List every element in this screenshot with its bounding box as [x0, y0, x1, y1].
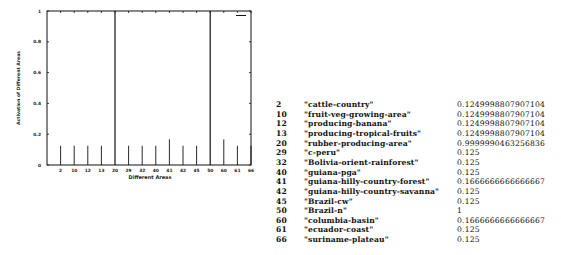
- x-tick-label: 32: [139, 168, 145, 173]
- x-tick-label: 60: [221, 168, 227, 173]
- activation-bar-chart: Activation of Different Areas 00.20.40.6…: [0, 0, 270, 200]
- area-name: "c-peru": [304, 148, 340, 158]
- x-tick-label: 40: [153, 168, 159, 173]
- x-tick-label: 10: [71, 168, 77, 173]
- area-name: "ecuador-coast": [304, 225, 373, 235]
- table-row: 41"guiana-hilly-country-forest"0.1666666…: [273, 177, 561, 187]
- area-id: 50: [276, 206, 287, 216]
- activation-value: 0.1249998807907104: [457, 110, 545, 120]
- area-name: "Brazil-cw": [304, 197, 353, 207]
- area-id: 2: [276, 100, 281, 110]
- x-tick-label: 12: [85, 168, 91, 173]
- activation-value: 0.125: [457, 197, 480, 207]
- activation-value: 0.9999990463256836: [457, 139, 545, 149]
- table-row: 2"cattle-country"0.1249998807907104: [273, 100, 561, 110]
- area-id: 60: [276, 216, 287, 226]
- table-row: 60"columbia-basin"0.1666666666666667: [273, 216, 561, 226]
- activation-value: 0.125: [457, 148, 480, 158]
- area-id: 40: [276, 168, 287, 178]
- area-name: "Bolivia-orient-rainforest": [304, 158, 418, 168]
- activation-value: 0.1249998807907104: [457, 129, 545, 139]
- table-row: 40"guiana-pga"0.125: [273, 168, 561, 178]
- area-id: 45: [276, 197, 287, 207]
- y-tick-label: 0.6: [33, 70, 41, 75]
- y-tick-label: 0.4: [33, 101, 41, 106]
- area-name: "suriname-plateau": [304, 235, 389, 245]
- y-tick-label: 0.8: [33, 39, 41, 44]
- area-name: "Brazil-n": [304, 206, 347, 216]
- x-tick-label: 13: [98, 168, 104, 173]
- area-name: "rubber-producing-area": [304, 139, 412, 149]
- table-row: 42"guiana-hilly-country-savanna"0.125: [273, 187, 561, 197]
- activation-value: 0.125: [457, 225, 480, 235]
- x-tick-label: 42: [180, 168, 186, 173]
- area-id: 13: [276, 129, 287, 139]
- x-tick-label: 66: [248, 168, 254, 173]
- table-row: 13"producing-tropical-fruits"0.124999880…: [273, 129, 561, 139]
- chart-canvas: Activation of Different Areas 00.20.40.6…: [0, 0, 270, 200]
- x-tick-label: 20: [112, 168, 118, 173]
- table-row: 66"suriname-plateau"0.125: [273, 235, 561, 245]
- area-id: 41: [276, 177, 287, 187]
- area-id: 42: [276, 187, 287, 197]
- table-row: 32"Bolivia-orient-rainforest"0.125: [273, 158, 561, 168]
- x-tick-label: 2: [59, 168, 62, 173]
- table-row: 61"ecuador-coast"0.125: [273, 225, 561, 235]
- area-name: "producing-tropical-fruits": [304, 129, 421, 139]
- activation-value: 0.1666666666666667: [457, 177, 545, 187]
- area-id: 12: [276, 119, 287, 129]
- activation-value: 0.1666666666666667: [457, 216, 545, 226]
- area-id: 66: [276, 235, 287, 245]
- activation-value: 0.1249998807907104: [457, 100, 545, 110]
- bars: [61, 11, 251, 165]
- x-tick-label: 45: [194, 168, 200, 173]
- table-row: 29"c-peru"0.125: [273, 148, 561, 158]
- table-row: 12"producing-banana"0.1249998807907104: [273, 119, 561, 129]
- area-name: "guiana-hilly-country-savanna": [304, 187, 439, 197]
- table-row: 20"rubber-producing-area"0.9999990463256…: [273, 139, 561, 149]
- activation-value: 0.125: [457, 158, 480, 168]
- area-name: "producing-banana": [304, 119, 392, 129]
- y-axis-ticks: 00.20.40.60.81: [33, 9, 251, 168]
- table-row: 45"Brazil-cw"0.125: [273, 197, 561, 207]
- area-name: "guiana-pga": [304, 168, 361, 178]
- x-tick-label: 61: [234, 168, 240, 173]
- y-tick-label: 0: [38, 163, 41, 168]
- x-axis-ticks: 21012132029324041424550606166: [59, 11, 254, 173]
- area-id: 61: [276, 225, 287, 235]
- x-tick-label: 50: [207, 168, 213, 173]
- area-id: 10: [276, 110, 287, 120]
- plot-frame: [47, 11, 251, 165]
- area-name: "columbia-basin": [304, 216, 379, 226]
- x-axis-label: Different Areas: [129, 174, 172, 180]
- activation-value: 0.125: [457, 168, 480, 178]
- table-row: 10"fruit-veg-growing-area"0.124999880790…: [273, 110, 561, 120]
- activation-value: 0.125: [457, 187, 480, 197]
- area-id: 32: [276, 158, 287, 168]
- x-tick-label: 41: [166, 168, 172, 173]
- area-name: "guiana-hilly-country-forest": [304, 177, 430, 187]
- activation-value: 0.1249998807907104: [457, 119, 545, 129]
- y-axis-label: Activation of Different Areas: [16, 51, 21, 125]
- area-id: 29: [276, 148, 287, 158]
- activation-value: 0.125: [457, 235, 480, 245]
- area-id: 20: [276, 139, 287, 149]
- activation-value: 1: [457, 206, 462, 216]
- table-row: 50"Brazil-n"1: [273, 206, 561, 216]
- y-tick-label: 0.2: [33, 132, 41, 137]
- area-name: "cattle-country": [304, 100, 374, 110]
- area-name: "fruit-veg-growing-area": [304, 110, 411, 120]
- y-tick-label: 1: [38, 9, 41, 14]
- x-tick-label: 29: [126, 168, 132, 173]
